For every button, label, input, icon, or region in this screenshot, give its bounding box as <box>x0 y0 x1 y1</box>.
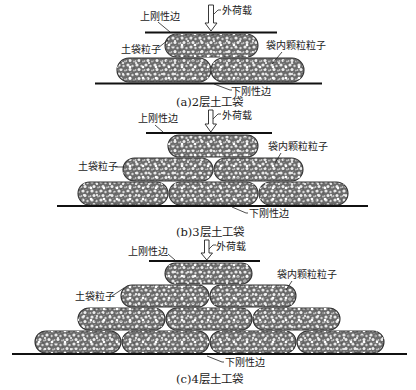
inner-particle-label: 袋内颗粒粒子 <box>268 140 328 152</box>
bottom-plate-label: 下刚性边 <box>249 207 289 219</box>
load-arrow <box>205 110 217 132</box>
bag-particles <box>253 308 340 330</box>
top-plate-leader <box>155 125 163 132</box>
inner-particle-label: 袋内颗粒粒子 <box>266 39 326 51</box>
top-plate-label: 上刚性边 <box>138 112 178 124</box>
bag-particles <box>166 308 252 330</box>
bag-particles <box>165 34 258 57</box>
bag-row-1 <box>168 135 258 157</box>
bag-particles <box>211 58 304 82</box>
bottom-plate-label: 下刚性边 <box>225 356 265 368</box>
top-plate-leader <box>158 22 170 32</box>
bag-row-2 <box>121 285 296 307</box>
geobag-stack-diagram: 外荷载 上刚性边 土袋粒子 袋内颗粒粒子 下刚性边 (a)2层土工袋 外荷载 上… <box>0 0 416 390</box>
bag-particles <box>168 135 258 157</box>
bag-row-3 <box>78 182 348 205</box>
load-label: 外荷载 <box>222 110 252 121</box>
bag-particles <box>210 331 296 353</box>
panel-c: 外荷载 上刚性边 <box>12 240 407 386</box>
bag-particles <box>214 158 303 181</box>
bag-particle-label: 土袋粒子 <box>78 160 118 172</box>
top-plate-label: 上刚性边 <box>140 10 180 22</box>
bag-particles <box>259 182 348 205</box>
panel-a: 外荷载 上刚性边 土袋粒子 袋内颗粒粒子 下刚性边 (a)2层土工袋 <box>95 5 326 109</box>
bag-particles <box>165 263 252 284</box>
load-label: 外荷载 <box>216 241 246 252</box>
load-leader <box>213 114 221 119</box>
load-arrow <box>201 240 213 260</box>
bag-row-4 <box>35 331 384 353</box>
bag-particles <box>78 182 168 205</box>
top-plate-leader <box>168 254 175 260</box>
bag-particles <box>121 285 209 307</box>
bag-particles <box>35 331 121 353</box>
panel-c-caption: (c)4层土工袋 <box>176 372 244 386</box>
bag-particles <box>123 158 213 181</box>
load-label: 外荷载 <box>222 5 252 16</box>
inner-particle-label: 袋内颗粒粒子 <box>277 268 337 280</box>
panel-a-caption: (a)2层土工袋 <box>176 95 244 109</box>
bag-particles <box>122 331 209 353</box>
load-arrow <box>205 5 217 31</box>
bag-particles <box>297 331 384 353</box>
bag-particles <box>169 182 258 205</box>
load-leader <box>214 10 221 14</box>
bag-particles <box>78 308 165 330</box>
bottom-plate-leader <box>232 207 248 213</box>
bag-particles <box>117 58 211 82</box>
top-plate-label: 上刚性边 <box>128 245 168 257</box>
bottom-plate-leader <box>214 84 232 90</box>
bottom-plate-leader <box>207 356 224 362</box>
load-leader <box>209 245 216 249</box>
bag-particles <box>210 285 296 307</box>
panel-b-caption: (b)3层土工袋 <box>176 225 245 239</box>
bag-particle-label: 土袋粒子 <box>121 43 161 55</box>
bag-row-1 <box>165 263 252 284</box>
bag-row-2 <box>117 58 304 82</box>
bag-row-1 <box>165 34 258 57</box>
bag-particle-label: 土袋粒子 <box>75 290 115 302</box>
panel-b: 外荷载 上刚性边 土袋粒子 袋内颗粒粒子 下刚性边 (b)3层土 <box>57 110 368 239</box>
bag-row-3 <box>78 308 340 330</box>
